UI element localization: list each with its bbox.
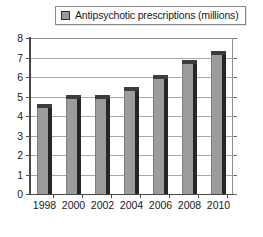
- y-tick-mark-right: [233, 97, 237, 98]
- y-axis-label: 2: [17, 150, 23, 161]
- x-axis-label: 2010: [207, 200, 230, 211]
- bar: [182, 60, 197, 194]
- chart-plot-area: 012345678: [30, 38, 233, 194]
- bar: [211, 51, 226, 194]
- bar-side-face: [193, 60, 197, 194]
- bar-side-face: [77, 95, 81, 194]
- y-axis-label: 0: [17, 189, 23, 200]
- x-axis-label: 2004: [120, 200, 143, 211]
- y-tick-mark-right: [233, 136, 237, 137]
- y-tick-mark-right: [233, 38, 237, 39]
- y-axis-label: 5: [17, 92, 23, 103]
- bar-side-face: [48, 104, 52, 194]
- x-axis-line: [29, 194, 234, 196]
- y-tick-mark-right: [233, 175, 237, 176]
- bar-front-face: [66, 99, 77, 194]
- bar-front-face: [211, 55, 222, 194]
- x-axis-label: 2008: [178, 200, 201, 211]
- x-axis-label: 2000: [62, 200, 85, 211]
- bar: [37, 104, 52, 194]
- y-tick-mark-right: [233, 116, 237, 117]
- bar: [153, 75, 168, 194]
- chart-legend: Antipsychotic prescriptions (millions): [55, 6, 246, 25]
- y-tick-mark-right: [233, 58, 237, 59]
- bar-front-face: [124, 91, 135, 194]
- x-axis-label: 2002: [91, 200, 114, 211]
- bar-front-face: [182, 64, 193, 194]
- bar-side-face: [106, 95, 110, 194]
- x-axis-label: 2006: [149, 200, 172, 211]
- y-axis-label: 4: [17, 111, 23, 122]
- y-axis-label: 8: [17, 33, 23, 44]
- y-tick-mark-right: [233, 155, 237, 156]
- bar: [66, 95, 81, 194]
- y-axis-label: 6: [17, 72, 23, 83]
- bar-series: [30, 38, 233, 194]
- legend-label: Antipsychotic prescriptions (millions): [75, 10, 239, 21]
- legend-swatch-icon: [61, 11, 70, 20]
- x-axis-label: 1998: [33, 200, 56, 211]
- y-axis-line: [29, 37, 31, 194]
- y-tick-mark-right: [233, 77, 237, 78]
- y-axis-label: 1: [17, 170, 23, 181]
- bar: [124, 87, 139, 194]
- bar-front-face: [153, 79, 164, 194]
- bar-side-face: [222, 51, 226, 194]
- bar-side-face: [164, 75, 168, 194]
- bar-front-face: [95, 99, 106, 194]
- y-axis-label: 3: [17, 131, 23, 142]
- bar-front-face: [37, 108, 48, 194]
- bar-side-face: [135, 87, 139, 194]
- bar: [95, 95, 110, 194]
- y-axis-label: 7: [17, 53, 23, 64]
